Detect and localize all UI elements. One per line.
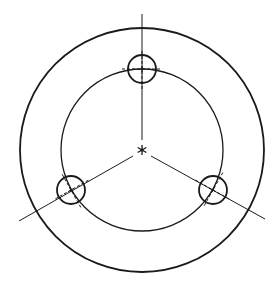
center-line-lower-right <box>151 156 265 219</box>
bolt-hole-lower-right <box>196 173 231 208</box>
bolt-hole-top <box>122 49 162 89</box>
bolt-hole-lower-left <box>54 173 89 208</box>
flange-diagram <box>0 0 279 282</box>
center-mark-icon <box>138 145 147 155</box>
center-lines <box>19 14 265 221</box>
center-line-lower-left <box>19 156 133 221</box>
